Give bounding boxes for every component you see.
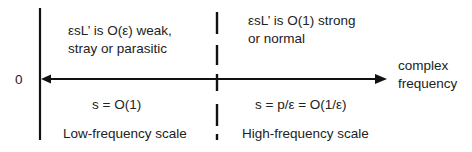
- frequency-scale-diagram: 0 εsL’ is O(ε) weak, stray or parasitic …: [0, 0, 472, 152]
- axis-label-line2: frequency: [398, 75, 457, 93]
- axis-left-arrowhead-icon: [41, 75, 51, 84]
- origin-label: 0: [15, 71, 23, 89]
- axis-right-arrowhead-icon: [375, 74, 387, 84]
- high-description-line2: or normal: [248, 30, 356, 48]
- high-frequency-scale-label: High-frequency scale: [242, 125, 369, 143]
- axis-label-line1: complex: [398, 57, 457, 75]
- low-frequency-equation: s = O(1): [92, 96, 141, 114]
- high-description-line1: εsL’ is O(1) strong: [248, 12, 356, 30]
- high-frequency-equation: s = p/ε = O(1/ε): [255, 96, 347, 114]
- low-description-line2: stray or parasitic: [68, 40, 172, 58]
- low-frequency-scale-label: Low-frequency scale: [63, 125, 187, 143]
- high-frequency-description: εsL’ is O(1) strong or normal: [248, 12, 356, 48]
- low-description-line1: εsL’ is O(ε) weak,: [68, 22, 172, 40]
- low-frequency-description: εsL’ is O(ε) weak, stray or parasitic: [68, 22, 172, 58]
- axis-label: complex frequency: [398, 57, 457, 93]
